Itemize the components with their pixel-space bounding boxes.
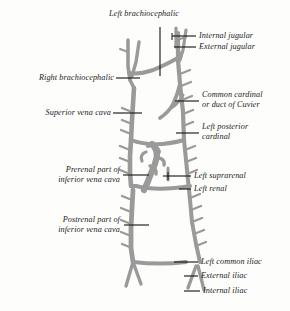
vessel-network: [120, 28, 206, 290]
label-internal-jugular: Internal jugular: [199, 31, 253, 41]
label-external-iliac: External iliac: [201, 271, 247, 281]
label-superior-vena-cava: Superior vena cava: [4, 108, 111, 118]
right-jugular-branch: [132, 42, 139, 76]
label-internal-iliac: Internal iliac: [203, 286, 247, 296]
posterior-cardinal-cross: [131, 140, 184, 144]
label-left-posterior-cardinal: Left posterior cardinal: [202, 122, 248, 142]
label-postrenal-ivc-line2: inferior vena cava: [10, 225, 120, 235]
label-left-suprarenal: Left suprarenal: [194, 171, 246, 181]
left-iliac-fork-medial: [133, 262, 141, 284]
subcardinal-plexus-knot-d: [141, 152, 146, 161]
label-left-renal: Left renal: [194, 184, 227, 194]
superior-vena-cava-vessel: [131, 88, 134, 140]
left-iliac-fork-lateral: [126, 262, 133, 286]
label-prerenal-ivc-line2: inferior vena cava: [12, 175, 120, 185]
figure-canvas: Left brachiocephalic Internal jugular Ex…: [0, 0, 290, 311]
label-external-jugular: External jugular: [199, 42, 255, 52]
right-supracardinal-lower: [184, 140, 200, 262]
label-left-posterior-cardinal-line1: Left posterior: [202, 122, 248, 132]
left-renal-vessel: [136, 186, 190, 189]
label-postrenal-ivc: Postrenal part of inferior vena cava: [10, 215, 120, 235]
subcardinal-plexus-knot-b: [158, 158, 164, 165]
label-prerenal-ivc-line1: Prerenal part of: [12, 165, 120, 175]
external-iliac-vessel: [188, 266, 196, 288]
label-right-brachiocephalic: Right brachiocephalic: [4, 73, 114, 83]
label-left-common-iliac: Left common iliac: [201, 257, 262, 267]
label-left-posterior-cardinal-line2: cardinal: [202, 132, 248, 142]
label-common-cardinal: Common cardinal or duct of Cuvier: [202, 90, 263, 110]
label-common-cardinal-line1: Common cardinal: [202, 90, 263, 100]
label-left-brachiocephalic: Left brachiocephalic: [84, 9, 204, 19]
label-common-cardinal-line2: or duct of Cuvier: [202, 100, 263, 110]
label-postrenal-ivc-line1: Postrenal part of: [10, 215, 120, 225]
label-prerenal-ivc: Prerenal part of inferior vena cava: [12, 165, 120, 185]
